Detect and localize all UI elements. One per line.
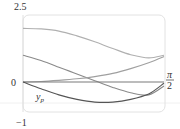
series-curve-2 [23, 55, 164, 95]
x-tick-end-denominator: 2 [167, 80, 172, 91]
y-tick-top: 2.5 [14, 1, 27, 12]
series-curve-1 [23, 28, 164, 58]
x-tick-end-numerator: π [167, 69, 173, 80]
yp-label: yp [35, 91, 44, 104]
series-layer [23, 28, 164, 102]
chart: 2.5 0 −1 π 2 yp [0, 0, 180, 129]
series-y_p [23, 82, 164, 102]
series-curve-3 [23, 57, 164, 83]
y-tick-zero: 0 [11, 77, 16, 88]
y-tick-bottom: −1 [16, 117, 27, 128]
